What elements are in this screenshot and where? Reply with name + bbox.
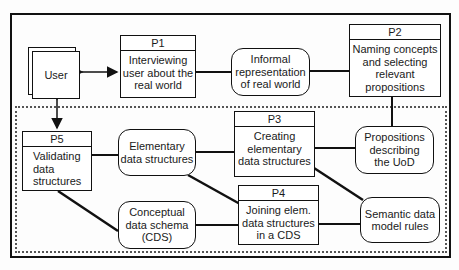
process-text: data structures bbox=[239, 217, 318, 230]
store-text: (CDS) bbox=[126, 231, 189, 244]
process-text: relevant bbox=[350, 68, 440, 81]
store-text: of real world bbox=[235, 78, 305, 91]
process-text: data structures bbox=[235, 155, 314, 168]
process-text: Validating bbox=[33, 150, 91, 163]
process-text: real world bbox=[121, 79, 195, 92]
process-p1: P1 Interviewing user about the real worl… bbox=[120, 35, 196, 98]
diagram-canvas: User P1 Interviewing user about the real… bbox=[0, 0, 459, 270]
process-p2: P2 Naming concepts and selecting relevan… bbox=[349, 24, 441, 97]
process-text: propositions bbox=[350, 81, 440, 94]
user-label: User bbox=[44, 69, 67, 81]
process-text: Creating bbox=[235, 130, 314, 143]
store-text: representation bbox=[235, 66, 305, 79]
user-entity: User bbox=[32, 51, 80, 99]
store-text: Informal bbox=[235, 53, 305, 66]
process-id: P1 bbox=[121, 36, 195, 51]
store-elementary-data-structures: Elementary data structures bbox=[118, 129, 196, 176]
store-text: Propositions bbox=[364, 131, 425, 144]
store-text: Semantic data bbox=[365, 208, 435, 221]
process-id: P3 bbox=[235, 112, 314, 127]
process-p4: P4 Joining elem. data structures in a CD… bbox=[238, 185, 319, 245]
store-conceptual-data-schema: Conceptual data schema (CDS) bbox=[118, 201, 196, 249]
process-p3: P3 Creating elementary data structures bbox=[234, 111, 315, 177]
process-id: P4 bbox=[239, 186, 318, 201]
store-text: describing bbox=[364, 144, 425, 157]
process-text: data bbox=[33, 163, 91, 176]
store-informal-representation: Informal representation of real world bbox=[231, 48, 310, 96]
store-text: Elementary bbox=[121, 140, 194, 153]
store-propositions: Propositions describing the UoD bbox=[355, 126, 434, 174]
process-id: P2 bbox=[350, 25, 440, 40]
process-text: elementary bbox=[235, 143, 314, 156]
store-text: the UoD bbox=[364, 156, 425, 169]
store-semantic-data-model-rules: Semantic data model rules bbox=[360, 197, 440, 243]
process-p5: P5 Validating data structures bbox=[22, 131, 92, 191]
store-text: data structures bbox=[121, 153, 194, 166]
process-text: Joining elem. bbox=[239, 204, 318, 217]
process-id: P5 bbox=[23, 132, 91, 147]
process-text: in a CDS bbox=[239, 229, 318, 242]
process-text: Interviewing bbox=[121, 54, 195, 67]
store-text: model rules bbox=[365, 220, 435, 233]
store-text: data schema bbox=[126, 219, 189, 232]
process-text: structures bbox=[33, 175, 91, 188]
process-text: user about the bbox=[121, 67, 195, 80]
process-text: Naming concepts bbox=[350, 43, 440, 56]
process-text: and selecting bbox=[350, 56, 440, 69]
store-text: Conceptual bbox=[126, 206, 189, 219]
